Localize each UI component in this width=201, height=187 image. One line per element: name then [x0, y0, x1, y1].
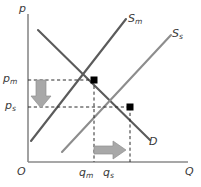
price-decrease-arrow — [31, 80, 51, 108]
quantity-tick-qs: qs — [103, 167, 114, 178]
diagram-canvas — [0, 0, 201, 187]
curve-label-demand: D — [149, 136, 157, 147]
price-tick-pm: pm — [3, 73, 17, 84]
equilibrium-marker-s — [127, 104, 134, 111]
quantity-increase-arrow — [94, 141, 126, 159]
y-axis-label: p — [19, 3, 26, 14]
equilibrium-marker-m — [91, 77, 98, 84]
curve-label-supply-market: Sm — [128, 13, 142, 24]
origin-label: O — [17, 166, 26, 177]
x-axis-label: Q — [185, 166, 194, 177]
quantity-tick-qm: qm — [79, 167, 93, 178]
curve-label-supply-social: Ss — [172, 28, 183, 39]
supply-demand-figure: p Q O pm ps qm qs Sm Ss D — [0, 0, 201, 187]
price-tick-ps: ps — [5, 100, 16, 111]
